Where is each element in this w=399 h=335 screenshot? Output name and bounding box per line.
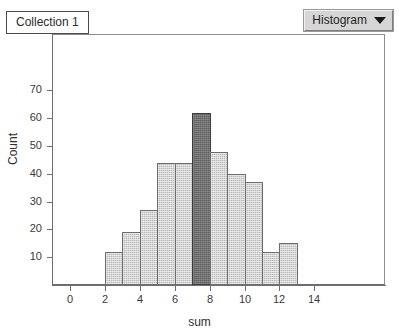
- histogram-bar[interactable]: [279, 243, 298, 285]
- histogram-window: Collection 1 Histogram 10203040506070 02…: [0, 0, 399, 335]
- histogram-bar[interactable]: [157, 163, 176, 285]
- histogram-bar[interactable]: [140, 210, 158, 285]
- histogram-bar[interactable]: [210, 152, 228, 285]
- histogram-bar[interactable]: [262, 252, 280, 285]
- histogram-bar[interactable]: [245, 182, 263, 285]
- histogram-bar[interactable]: [227, 174, 246, 285]
- y-axis-title: Count: [6, 114, 20, 184]
- histogram-bar[interactable]: [122, 232, 141, 285]
- histogram-bar[interactable]: [192, 113, 211, 285]
- x-axis-title: sum: [0, 315, 399, 329]
- histogram-bars: [0, 0, 399, 335]
- histogram-bar[interactable]: [175, 163, 193, 285]
- histogram-bar[interactable]: [105, 252, 123, 285]
